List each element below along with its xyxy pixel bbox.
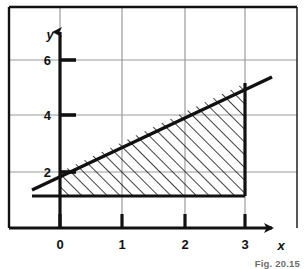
x-tick-label-2: 2 [181,237,188,252]
x-tick-label-0: 0 [56,237,63,252]
figure-caption: Fig. 20.15 [255,258,300,269]
x-axis-label: x [276,238,285,253]
y-axis-label: y [45,27,54,42]
y-tick-label-2: 2 [44,165,51,180]
x-tick-label-3: 3 [241,237,248,252]
y-tick-label-6: 6 [44,53,51,68]
y-tick-label-4: 4 [44,108,52,123]
x-tick-label-1: 1 [118,237,125,252]
